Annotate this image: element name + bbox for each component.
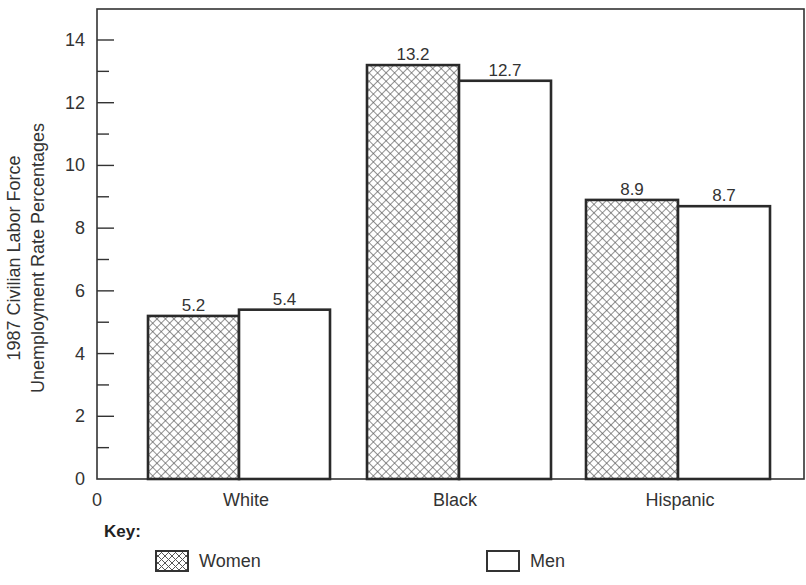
y-tick-label: 10 [65,155,85,175]
bar-group-white: 5.25.4 [148,290,330,479]
y-axis-title-line: 1987 Civilian Labor Force [4,155,24,360]
x-category-label: Hispanic [645,490,714,510]
legend-title: Key: [104,522,141,542]
bar-group-black: 13.212.7 [367,45,551,479]
legend-item-men: Men [486,550,565,572]
x-axis: 0WhiteBlackHispanic [92,490,715,510]
y-axis-title-line: Unemployment Rate Percentages [28,123,48,393]
bar-men-black [459,81,551,479]
x-category-label: White [223,490,269,510]
bar-chart: 02468101214 5.25.413.212.78.98.7 0WhiteB… [0,0,806,585]
bar-women-white [148,316,239,479]
x-origin-label: 0 [92,490,102,510]
value-label: 5.4 [273,290,297,309]
legend-label-men: Men [530,551,565,572]
y-axis: 02468101214 [65,30,114,489]
bar-group-hispanic: 8.98.7 [586,180,770,479]
y-tick-label: 6 [75,281,85,301]
value-label: 8.9 [620,180,644,199]
y-tick-label: 8 [75,218,85,238]
bar-men-white [239,310,330,479]
value-label: 13.2 [396,45,429,64]
value-label: 5.2 [182,296,206,315]
crosshatch-swatch-icon [155,550,189,572]
y-tick-label: 2 [75,406,85,426]
y-tick-label: 14 [65,30,85,50]
value-label: 8.7 [712,186,736,205]
x-category-label: Black [433,490,478,510]
legend-item-women: Women [155,550,261,572]
y-tick-label: 4 [75,344,85,364]
y-tick-label: 12 [65,93,85,113]
y-axis-title: 1987 Civilian Labor ForceUnemployment Ra… [4,123,48,393]
bar-women-black [367,65,459,479]
bars: 5.25.413.212.78.98.7 [148,45,770,479]
bar-men-hispanic [678,206,770,479]
value-label: 12.7 [488,61,521,80]
bar-women-hispanic [586,200,678,479]
white-swatch-icon [486,550,520,572]
y-tick-label: 0 [75,469,85,489]
legend-label-women: Women [199,551,261,572]
